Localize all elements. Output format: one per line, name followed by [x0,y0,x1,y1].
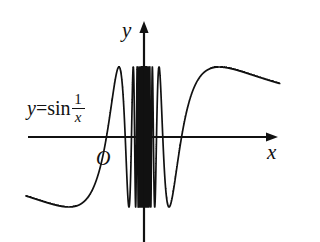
equation-lhs: y [27,98,36,118]
x-axis-label: x [267,142,276,163]
origin-label: O [96,148,110,168]
fraction-denominator: x [73,110,84,125]
function-equation-label: y = sin 1 x [27,92,85,125]
equation-equals: = [36,98,47,118]
fraction-numerator: 1 [72,92,84,107]
y-axis-label: y [122,20,131,41]
equation-fraction: 1 x [72,92,85,125]
equation-sin: sin [47,98,70,118]
